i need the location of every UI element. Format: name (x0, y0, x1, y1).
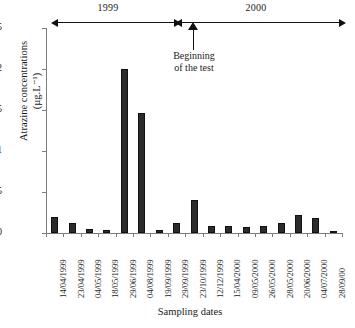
x-axis-tick-label: 23/04/1999 (76, 259, 86, 298)
y-axis-line (46, 28, 47, 234)
bar (330, 231, 337, 233)
bar (69, 223, 76, 233)
y-axis-tick (42, 69, 47, 70)
x-axis-tick-label: 29/09/1999 (180, 259, 190, 298)
x-axis-tick-label: 26/05/2000 (267, 259, 277, 298)
bar (173, 223, 180, 233)
x-axis-tick-label: 15/04/2000 (232, 259, 242, 298)
x-axis-tick-label: 23/10/1999 (198, 259, 208, 298)
x-axis-tick-label: 14/04/1999 (58, 259, 68, 298)
x-axis-line (46, 233, 342, 234)
arrow-head-left-icon (51, 19, 58, 27)
bar (121, 69, 128, 233)
y-axis-tick-label: 1,5 (0, 104, 2, 114)
x-axis-tick-label: 28/05/2000 (285, 259, 295, 298)
x-axis-tick-labels: 14/04/199923/04/199904/05/199918/05/1999… (46, 236, 342, 306)
bar (278, 223, 285, 233)
bar (295, 215, 302, 233)
period-label-1999: 1999 (78, 2, 138, 13)
bar (312, 218, 319, 233)
x-axis-tick-label: 28/09/00 (337, 268, 347, 298)
y-axis-tick (42, 110, 47, 111)
y-axis-title: Atrazine concentrations (µg.L⁻¹) (17, 1, 43, 181)
x-axis-tick-label: 29/06/1999 (128, 259, 138, 298)
arrow-head-right-icon (339, 19, 346, 27)
bar (208, 226, 215, 233)
x-axis-tick (342, 233, 343, 237)
x-axis-title: Sampling dates (120, 306, 260, 317)
bar (86, 229, 93, 233)
bar (51, 217, 58, 233)
y-axis-title-text: Atrazine concentrations (18, 41, 29, 141)
y-axis-tick-label: 2,5 (0, 22, 2, 32)
bar (138, 113, 145, 233)
y-axis-tick-label: 1 (0, 145, 2, 155)
bar (243, 227, 250, 233)
x-axis-tick-label: 04/07/2000 (319, 259, 329, 298)
arrow-head-left-icon (175, 19, 182, 27)
x-axis-tick-label: 12/12/1999 (215, 259, 225, 298)
bar (191, 200, 198, 233)
y-axis-tick (42, 192, 47, 193)
period-arrow-2000 (181, 22, 340, 23)
x-axis-tick-label: 04/08/1999 (145, 259, 155, 298)
bar (156, 230, 163, 233)
y-axis-tick (42, 28, 47, 29)
x-axis-tick-label: 20/06/2000 (302, 259, 312, 298)
plot-area (46, 28, 342, 233)
bar (103, 230, 110, 233)
y-axis-tick-label: 2 (0, 63, 2, 73)
bar (260, 226, 267, 233)
x-axis-tick-label: 04/05/1999 (93, 259, 103, 298)
x-axis-tick-label: 09/05/2000 (250, 259, 260, 298)
bar (225, 226, 232, 233)
period-arrow-1999 (57, 22, 175, 23)
y-axis-tick-label: 0,5 (0, 186, 2, 196)
period-label-2000: 2000 (226, 2, 286, 13)
x-axis-tick-label: 19/09/1999 (163, 259, 173, 298)
x-axis-tick-label: 18/05/1999 (110, 259, 120, 298)
y-axis-tick-label: 0 (0, 227, 2, 237)
y-axis-tick (42, 151, 47, 152)
